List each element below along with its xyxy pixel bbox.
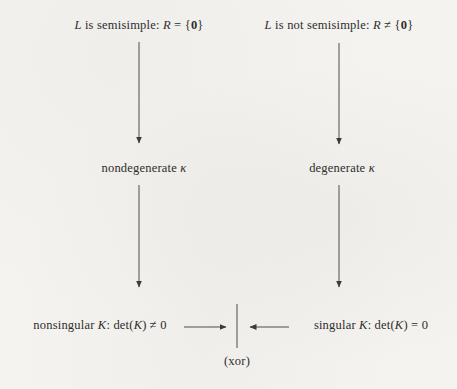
node-degenerate-kappa-label: degenerate κ — [309, 160, 375, 176]
node-nonsingular-K-label: nonsingular K: det(K) ≠ 0 — [33, 317, 166, 333]
node-nondegenerate-kappa-label: nondegenerate κ — [101, 160, 186, 176]
node-not-semisimple-label: L is not semisimple: R ≠ {0} — [265, 17, 414, 33]
node-singular-K-label: singular K: det(K) = 0 — [314, 317, 428, 333]
xor-label: (xor) — [224, 353, 250, 369]
scanned-page: L is semisimple: R = {0} L is not semisi… — [0, 0, 457, 389]
node-semisimple-label: L is semisimple: R = {0} — [74, 17, 203, 33]
